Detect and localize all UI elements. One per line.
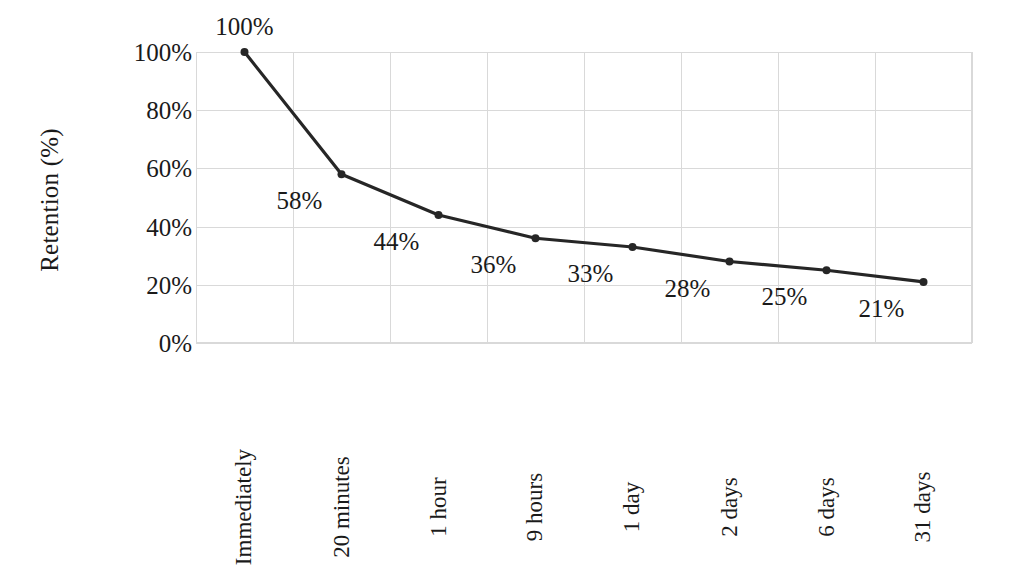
series-line <box>245 52 924 282</box>
data-point-label: 100% <box>215 14 273 39</box>
x-axis-category-label-text: 1 hour <box>426 477 452 536</box>
x-axis-category-label-text: 1 day <box>620 482 646 532</box>
data-point-marker <box>629 243 637 251</box>
x-axis-category-label-text: 9 hours <box>523 473 549 541</box>
x-axis-category-label-text: Immediately <box>232 449 258 565</box>
x-axis-category-label: 31 days <box>914 355 934 520</box>
data-point-marker <box>338 170 346 178</box>
data-point-label: 36% <box>471 252 517 277</box>
x-axis-category-label-text: 20 minutes <box>329 456 355 558</box>
y-axis-tick-label: 100% <box>72 40 192 65</box>
data-point-marker <box>435 211 443 219</box>
data-point-label: 44% <box>374 229 420 254</box>
data-point-marker <box>241 48 249 56</box>
x-axis-category-label-text: 2 days <box>717 477 743 536</box>
data-point-marker <box>532 234 540 242</box>
data-point-label: 28% <box>665 276 711 301</box>
gridline-horizontal <box>196 343 972 344</box>
x-axis-category-label-text: 31 days <box>911 472 937 543</box>
data-point-label: 21% <box>859 296 905 321</box>
x-axis-category-label-text: 6 days <box>814 477 840 536</box>
gridline-vertical <box>972 52 973 343</box>
data-point-marker <box>823 266 831 274</box>
x-axis-category-label: 2 days <box>720 355 740 520</box>
data-point-label: 25% <box>762 284 808 309</box>
x-axis-category-label: 9 hours <box>526 355 546 520</box>
data-point-marker <box>726 258 734 266</box>
y-axis-tick-label: 20% <box>72 273 192 298</box>
y-axis-title-text: Retention (%) <box>36 128 64 272</box>
y-axis-tick-label: 40% <box>72 215 192 240</box>
y-axis-tick-label: 0% <box>72 331 192 356</box>
y-axis-tick-label: 60% <box>72 156 192 181</box>
x-axis-category-label: 6 days <box>817 355 837 520</box>
data-point-marker <box>920 278 928 286</box>
data-point-label: 33% <box>568 261 614 286</box>
y-axis-tick-label: 80% <box>72 98 192 123</box>
x-axis-category-label: 1 hour <box>429 355 449 520</box>
data-point-label: 58% <box>277 188 323 213</box>
x-axis-category-label: Immediately <box>235 355 255 520</box>
x-axis-category-label: 20 minutes <box>332 355 352 520</box>
x-axis-category-label: 1 day <box>623 355 643 520</box>
